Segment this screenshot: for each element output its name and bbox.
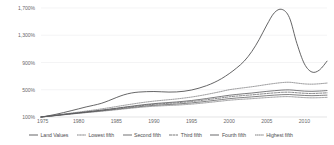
x-axis-tick-label: 1990 (148, 118, 159, 124)
legend-label: Highest fifth (266, 132, 293, 138)
y-axis-tick-label: 900% (22, 60, 35, 66)
legend-swatch-icon (29, 132, 38, 138)
plot-area (41, 8, 327, 117)
legend-label: Land Values (41, 132, 69, 138)
legend-item-third-fifth[interactable]: Third fifth (169, 132, 202, 138)
y-axis-tick-label: 500% (22, 87, 35, 93)
legend-swatch-icon (123, 132, 132, 138)
series-lines (41, 8, 327, 117)
series-line-land-values (41, 9, 327, 117)
legend-label: Third fifth (181, 132, 202, 138)
x-axis-tick-label: 2005 (261, 118, 272, 124)
legend-item-highest-fifth[interactable]: Highest fifth (255, 132, 293, 138)
legend-swatch-icon (255, 132, 264, 138)
legend-swatch-icon (169, 132, 178, 138)
legend-label: Fourth fifth (222, 132, 246, 138)
legend-swatch-icon (210, 132, 219, 138)
legend-item-lowest-fifth[interactable]: Lowest fifth (77, 132, 114, 138)
y-axis-tick-label: 100% (22, 114, 35, 120)
y-axis: 100%500%900%1,300%1,700% (0, 8, 38, 117)
y-axis-tick-label: 1,700% (18, 5, 35, 11)
y-axis-tick-label: 1,300% (18, 32, 35, 38)
legend-label: Second fifth (134, 132, 161, 138)
legend-item-second-fifth[interactable]: Second fifth (123, 132, 161, 138)
legend-label: Lowest fifth (88, 132, 114, 138)
x-axis-tick-label: 1985 (111, 118, 122, 124)
x-axis-tick-label: 1975 (37, 118, 48, 124)
land-values-income-quintiles-chart: 100%500%900%1,300%1,700% 197519801985199… (0, 0, 334, 145)
x-axis-tick-label: 2000 (224, 118, 235, 124)
x-axis-tick-label: 1980 (73, 118, 84, 124)
legend-swatch-icon (77, 132, 86, 138)
x-axis-tick-label: 1995 (186, 118, 197, 124)
chart-legend: Land ValuesLowest fifthSecond fifthThird… (29, 129, 329, 141)
legend-item-land-values[interactable]: Land Values (29, 132, 68, 138)
x-axis-tick-label: 2010 (299, 118, 310, 124)
series-line-third-fifth (41, 92, 327, 117)
series-line-lowest-fifth (41, 97, 327, 117)
x-axis: 19751980198519901995200020052010 (41, 118, 327, 127)
legend-item-fourth-fifth[interactable]: Fourth fifth (210, 132, 246, 138)
